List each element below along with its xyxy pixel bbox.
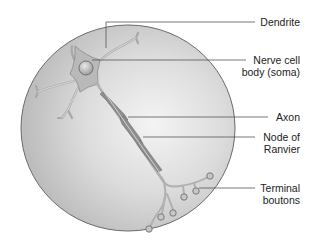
label-soma: Nerve cell body (soma) [242,54,300,78]
nucleus [79,61,93,75]
label-soma-line2: body (soma) [242,66,300,78]
label-dendrite: Dendrite [260,16,300,28]
label-soma-line1: Nerve cell [242,54,300,66]
label-node-line2: Ranvier [263,143,300,155]
label-axon: Axon [276,111,300,123]
label-node-line1: Node of [263,131,300,143]
label-terminal-boutons: Terminal boutons [260,182,300,206]
label-dendrite-text: Dendrite [260,16,300,28]
label-axon-text: Axon [276,111,300,123]
label-terminal-line2: boutons [260,194,300,206]
label-terminal-line1: Terminal [260,182,300,194]
label-node-of-ranvier: Node of Ranvier [263,131,300,155]
